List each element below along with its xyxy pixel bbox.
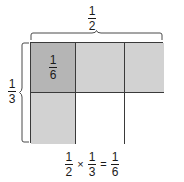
- top-brace-icon: [30, 30, 163, 41]
- multiplication-operator: ×: [77, 159, 83, 170]
- equation-product-numerator: 1: [111, 151, 120, 165]
- left-dimension-numerator: 1: [8, 78, 17, 92]
- top-dimension-label: 1 2: [0, 5, 184, 32]
- grid-cell-r0c1: [76, 43, 125, 93]
- left-brace-icon: [19, 42, 30, 143]
- grid-cell-r1c0: [31, 93, 76, 144]
- grid-cell-r1c1: [76, 93, 125, 144]
- equation-factor2-denominator: 3: [88, 165, 97, 178]
- equals-operator: =: [100, 159, 106, 170]
- equation-factor2-numerator: 1: [88, 151, 97, 165]
- equation-factor2-fraction: 1 3: [88, 151, 97, 178]
- left-dimension-fraction: 1 3: [8, 78, 17, 105]
- equation-factor1-numerator: 1: [65, 151, 74, 165]
- grid-cell-r1c2: [125, 93, 164, 144]
- grid-cell-denominator-r0c0: 6: [49, 68, 58, 81]
- grid-cell-fraction-r0c0: 1 6: [49, 54, 58, 81]
- equation-factor1-fraction: 1 2: [65, 151, 74, 178]
- equation-product-fraction: 1 6: [111, 151, 120, 178]
- left-dimension-denominator: 3: [8, 92, 17, 105]
- equation-product-denominator: 6: [111, 165, 120, 178]
- equation: 1 2 × 1 3 = 1 6: [0, 151, 184, 178]
- equation-factor1-denominator: 2: [65, 165, 74, 178]
- grid-cell-r0c2: [125, 43, 164, 93]
- top-dimension-fraction: 1 2: [88, 5, 97, 32]
- area-model-grid: 1 6: [30, 42, 163, 143]
- grid-cell-numerator-r0c0: 1: [49, 54, 58, 68]
- grid-cell-r0c0: 1 6: [31, 43, 76, 93]
- fraction-area-model-figure: 1 2 1 3 1 6 1 2: [0, 0, 184, 182]
- left-dimension-label: 1 3: [4, 78, 20, 105]
- top-dimension-numerator: 1: [88, 5, 97, 19]
